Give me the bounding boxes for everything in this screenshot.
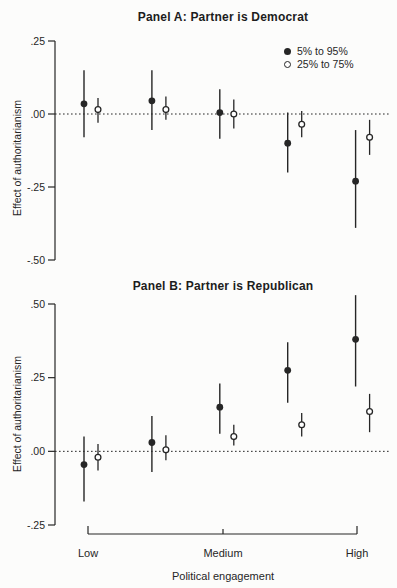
y-tick-label: -.50: [27, 254, 45, 266]
estimate-marker-filled: [81, 461, 88, 468]
open-circle-icon: [284, 61, 291, 68]
estimate-marker-filled: [149, 439, 156, 446]
estimate-marker-open: [231, 434, 237, 440]
y-tick-label: .50: [30, 298, 45, 310]
y-tick-label: -.25: [27, 181, 45, 193]
estimate-marker-open: [163, 107, 169, 113]
estimate-marker-filled: [284, 140, 291, 147]
estimate-marker-filled: [149, 97, 156, 104]
x-tick-label: Low: [78, 547, 98, 559]
estimate-marker-open: [95, 454, 101, 460]
panel-b-y-axis-title: Effect of authoritarianism: [11, 356, 23, 472]
legend-item-5-95: 5% to 95%: [284, 46, 354, 56]
y-tick-label: .00: [30, 108, 45, 120]
estimate-marker-filled: [81, 100, 88, 107]
two-panel-coefficient-plot: .25.00-.25-.50.50.25.00-.25LowMediumHigh…: [0, 0, 397, 588]
legend-item-25-75: 25% to 75%: [284, 59, 354, 69]
estimate-marker-open: [95, 107, 101, 113]
x-tick-label: Medium: [203, 547, 242, 559]
estimate-marker-open: [299, 121, 305, 127]
estimate-marker-filled: [284, 367, 291, 374]
y-tick-label: -.25: [27, 519, 45, 531]
panel-b-title: Panel B: Partner is Republican: [55, 279, 391, 293]
y-tick-label: .25: [30, 35, 45, 47]
estimate-marker-open: [231, 111, 237, 117]
estimate-marker-open: [367, 409, 373, 415]
y-tick-label: .00: [30, 445, 45, 457]
estimate-marker-filled: [352, 178, 359, 185]
legend-label: 25% to 75%: [297, 58, 354, 70]
y-tick-label: .25: [30, 371, 45, 383]
filled-circle-icon: [284, 48, 291, 55]
estimate-marker-open: [163, 447, 169, 453]
x-axis-title: Political engagement: [55, 570, 391, 582]
estimate-marker-open: [367, 134, 373, 140]
x-tick-label: High: [346, 547, 369, 559]
panel-a-title: Panel A: Partner is Democrat: [55, 10, 391, 24]
legend: 5% to 95% 25% to 75%: [284, 46, 354, 69]
estimate-marker-filled: [352, 336, 359, 343]
estimate-marker-filled: [216, 109, 223, 116]
legend-label: 5% to 95%: [297, 45, 348, 57]
chart-canvas: .25.00-.25-.50.50.25.00-.25LowMediumHigh: [0, 0, 397, 588]
estimate-marker-filled: [216, 404, 223, 411]
panel-a-y-axis-title: Effect of authoritarianism: [11, 100, 23, 216]
estimate-marker-open: [299, 422, 305, 428]
